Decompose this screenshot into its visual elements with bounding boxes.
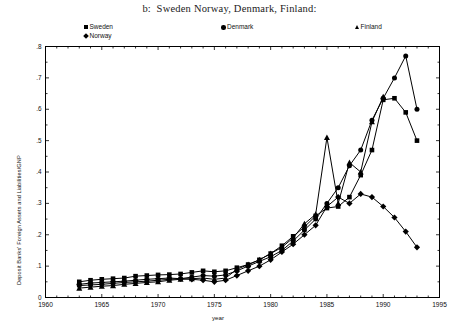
data-point-marker — [370, 148, 375, 153]
data-point-marker — [256, 263, 262, 269]
data-point-marker — [302, 228, 307, 233]
figure-container: b: Sweden Norway, Denmark, Finland: Swed… — [0, 0, 459, 327]
y-tick-label: .5 — [20, 137, 42, 144]
data-point-marker — [414, 107, 419, 112]
y-tick-label: .2 — [20, 231, 42, 238]
x-axis-title: year — [212, 314, 224, 321]
data-point-marker — [415, 138, 420, 143]
data-point-marker — [392, 75, 397, 80]
data-point-marker — [392, 96, 397, 101]
series-line — [79, 98, 417, 282]
plot-area — [0, 0, 459, 327]
series-line — [79, 56, 417, 286]
data-point-marker — [324, 201, 329, 206]
axis-ticks — [46, 47, 440, 298]
data-point-marker — [403, 53, 408, 58]
data-point-marker — [358, 148, 363, 153]
data-point-marker — [245, 268, 251, 274]
x-tick-label: 1970 — [143, 301, 173, 308]
series-denmark — [77, 53, 420, 288]
x-tick-label: 1965 — [87, 301, 117, 308]
data-point-marker — [212, 269, 217, 274]
series-norway — [76, 191, 420, 288]
x-tick-label: 1990 — [368, 301, 398, 308]
data-point-marker — [313, 217, 318, 222]
series-finland — [76, 94, 386, 291]
series-line — [79, 97, 383, 288]
x-tick-label: 1995 — [425, 301, 455, 308]
y-tick-label: 0 — [20, 294, 42, 301]
data-point-marker — [336, 185, 341, 190]
x-tick-label: 1960 — [31, 301, 61, 308]
y-tick-label: .1 — [20, 262, 42, 269]
data-point-marker — [234, 272, 240, 278]
y-tick-label: .3 — [20, 199, 42, 206]
data-point-marker — [201, 269, 206, 274]
y-tick-label: .8 — [20, 43, 42, 50]
x-tick-label: 1980 — [256, 301, 286, 308]
x-tick-label: 1975 — [199, 301, 229, 308]
y-tick-label: .7 — [20, 74, 42, 81]
data-point-marker — [324, 134, 330, 140]
y-tick-label: .6 — [20, 105, 42, 112]
data-point-marker — [403, 110, 408, 115]
data-series-layer — [76, 53, 420, 290]
data-point-marker — [190, 270, 195, 275]
x-tick-label: 1985 — [312, 301, 342, 308]
data-point-marker — [347, 195, 352, 200]
series-sweden — [77, 96, 419, 284]
axis-lines — [45, 46, 440, 298]
y-tick-label: .4 — [20, 168, 42, 175]
data-point-marker — [335, 200, 341, 206]
